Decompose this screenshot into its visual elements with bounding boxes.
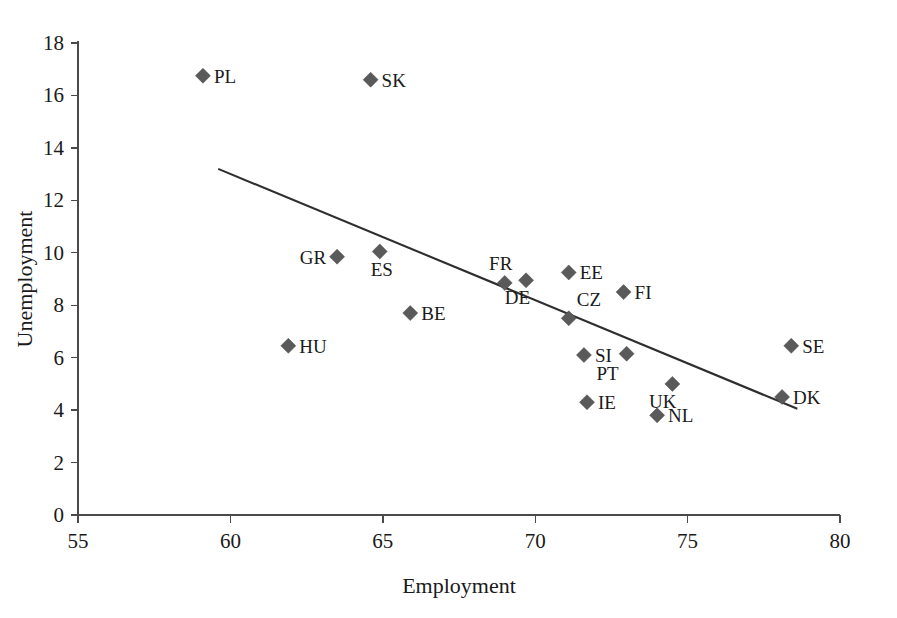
y-tick-label-12: 12 — [43, 188, 64, 212]
data-label-CZ: CZ — [577, 289, 601, 310]
data-label-DK: DK — [793, 387, 821, 408]
data-point-DK — [775, 390, 790, 405]
data-label-NL: NL — [668, 405, 693, 426]
y-tick-label-8: 8 — [54, 293, 65, 317]
data-label-ES: ES — [371, 259, 393, 280]
data-label-PT: PT — [596, 363, 619, 384]
data-point-ES — [372, 244, 387, 259]
chart-canvas: 024681012141618556065707580PLSKGRESFRDEE… — [0, 0, 897, 618]
x-tick-label-65: 65 — [372, 529, 393, 553]
y-tick-label-4: 4 — [54, 398, 65, 422]
data-label-FI: FI — [635, 282, 652, 303]
data-point-PT — [619, 346, 634, 361]
data-point-SE — [784, 338, 799, 353]
y-axis-title: Unemployment — [12, 211, 37, 348]
data-point-SI — [576, 348, 591, 363]
y-tick-label-2: 2 — [54, 451, 65, 475]
data-label-BE: BE — [421, 303, 445, 324]
data-label-PL: PL — [214, 66, 236, 87]
data-point-IE — [580, 395, 595, 410]
data-point-PL — [195, 68, 210, 83]
data-point-FI — [616, 285, 631, 300]
data-label-IE: IE — [598, 392, 616, 413]
x-tick-label-60: 60 — [220, 529, 241, 553]
data-label-FR: FR — [489, 253, 513, 274]
data-point-DE — [519, 273, 534, 288]
data-label-EE: EE — [580, 262, 603, 283]
data-point-GR — [330, 249, 345, 264]
x-tick-label-75: 75 — [677, 529, 698, 553]
data-point-UK — [665, 376, 680, 391]
data-point-HU — [281, 338, 296, 353]
y-tick-label-10: 10 — [43, 241, 64, 265]
data-label-DE: DE — [505, 287, 530, 308]
data-label-HU: HU — [299, 336, 327, 357]
x-tick-label-55: 55 — [68, 529, 89, 553]
data-point-SK — [363, 72, 378, 87]
data-label-GR: GR — [300, 247, 327, 268]
axis-lines — [78, 41, 840, 515]
x-tick-label-70: 70 — [525, 529, 546, 553]
y-tick-label-16: 16 — [43, 83, 64, 107]
data-label-SE: SE — [802, 336, 824, 357]
scatter-chart: 024681012141618556065707580PLSKGRESFRDEE… — [0, 0, 897, 618]
data-point-EE — [561, 265, 576, 280]
y-tick-label-0: 0 — [54, 503, 65, 527]
x-tick-label-80: 80 — [830, 529, 851, 553]
y-tick-label-6: 6 — [54, 346, 65, 370]
data-point-BE — [403, 306, 418, 321]
y-tick-label-14: 14 — [43, 136, 65, 160]
data-point-CZ — [561, 311, 576, 326]
data-label-SK: SK — [382, 70, 407, 91]
x-axis-title: Employment — [402, 573, 516, 598]
y-tick-label-18: 18 — [43, 31, 64, 55]
